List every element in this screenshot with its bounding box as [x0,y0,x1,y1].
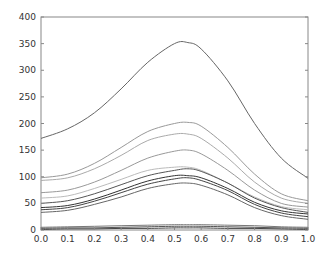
x-tick-label: 0.0 [34,234,49,244]
series-line-s1 [41,42,308,179]
y-tick-label: 100 [19,172,36,182]
x-tick-label: 0.9 [274,234,289,244]
y-tick-label: 350 [19,39,36,49]
y-tick-label: 400 [19,12,36,22]
x-tick-label: 0.5 [167,234,181,244]
y-tick-label: 150 [19,145,36,155]
x-tick-label: 0.4 [141,234,156,244]
series-line-s9 [41,183,308,219]
series-layer [41,42,308,230]
y-tick-label: 0 [30,225,36,235]
line-chart: 0.00.10.20.30.40.50.60.70.80.91.0 050100… [0,0,329,255]
y-tick-label: 200 [19,119,36,129]
x-tick-label: 0.8 [247,234,262,244]
x-tick-label: 1.0 [301,234,316,244]
y-tick-label: 300 [19,65,36,75]
x-tick-label: 0.2 [87,234,101,244]
y-tick-label: 250 [19,92,36,102]
x-tick-label: 0.3 [114,234,128,244]
x-tick-label: 0.1 [61,234,75,244]
x-tick-label: 0.7 [221,234,235,244]
x-tick-label: 0.6 [194,234,209,244]
y-tick-label: 50 [25,198,37,208]
